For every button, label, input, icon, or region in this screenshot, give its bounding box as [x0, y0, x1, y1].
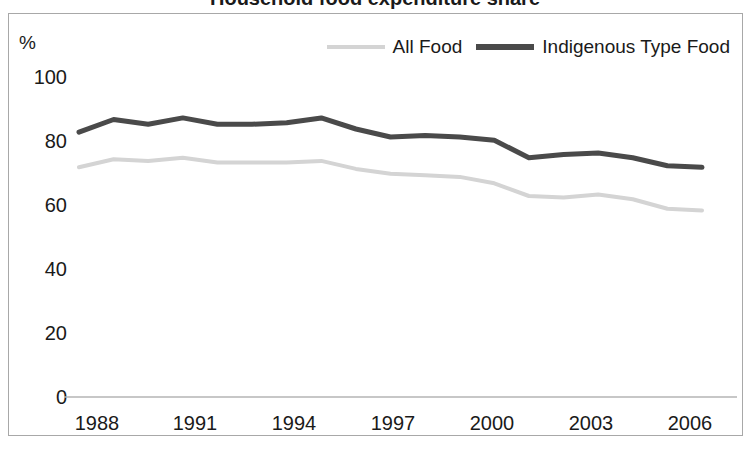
chart-title-strip: Household food expenditure share [0, 0, 750, 12]
plot-area: % 0 20 40 60 80 100 1988 1991 1994 1997 … [9, 14, 742, 435]
series-lines [9, 14, 744, 437]
chart-title: Household food expenditure share [0, 0, 750, 10]
series-line-all-food [79, 158, 702, 211]
chart-frame: % 0 20 40 60 80 100 1988 1991 1994 1997 … [8, 13, 743, 436]
